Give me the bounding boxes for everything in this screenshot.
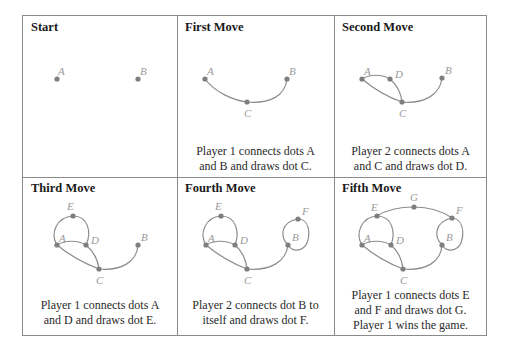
dot-e <box>374 213 379 218</box>
dot-d <box>83 242 88 247</box>
edge-d-c <box>235 245 247 269</box>
dot-b <box>439 242 444 247</box>
edge-a-c <box>206 245 247 269</box>
dot-a <box>202 76 207 81</box>
dot-graphs: A B A B C A D B C <box>0 0 510 352</box>
dot-g <box>411 204 416 209</box>
label-c: C <box>244 274 252 286</box>
label-g: G <box>410 191 418 203</box>
label-a: A <box>206 65 214 77</box>
dot-d <box>388 242 393 247</box>
label-a: A <box>58 232 66 244</box>
edge-d-c <box>86 245 99 269</box>
dot-b <box>285 242 290 247</box>
label-b: B <box>446 231 453 243</box>
dot-e <box>70 213 75 218</box>
graph-third-move: E A D B C <box>54 200 148 286</box>
label-a: A <box>363 65 371 77</box>
edge-c-b <box>247 79 287 102</box>
edge-c-b <box>402 78 442 102</box>
edge-e-g <box>377 207 414 216</box>
graph-start: A B <box>54 65 147 82</box>
label-a: A <box>207 232 215 244</box>
graph-second-move: A D B C <box>359 64 452 119</box>
label-b: B <box>140 65 147 77</box>
dot-a <box>54 76 59 81</box>
label-b: B <box>445 64 452 76</box>
edge-e-d <box>221 216 237 245</box>
label-b: B <box>289 65 296 77</box>
edge-d-c <box>391 245 403 269</box>
label-a: A <box>57 65 65 77</box>
graph-first-move: A B C <box>202 65 296 119</box>
edge-a-c <box>362 79 402 102</box>
dot-b <box>135 242 140 247</box>
dot-c <box>399 99 404 104</box>
edge-c-b <box>403 245 442 269</box>
edge-a-c <box>205 79 247 102</box>
edge-c-b <box>247 245 288 269</box>
label-c: C <box>399 107 407 119</box>
dot-e <box>218 213 223 218</box>
label-e: E <box>370 201 378 213</box>
label-a: A <box>363 232 371 244</box>
label-d: D <box>395 234 404 246</box>
label-b: B <box>292 231 299 243</box>
dot-b <box>284 76 289 81</box>
label-d: D <box>90 234 99 246</box>
dot-d <box>232 242 237 247</box>
edge-a-c <box>57 245 99 269</box>
dot-c <box>96 266 101 271</box>
edge-g-f <box>414 207 452 218</box>
label-c: C <box>244 107 252 119</box>
dot-b <box>439 75 444 80</box>
graph-fifth-move: E G F A D B C <box>359 191 463 286</box>
dot-c <box>244 99 249 104</box>
label-c: C <box>400 274 408 286</box>
label-d: D <box>239 234 248 246</box>
edge-c-b <box>99 245 138 269</box>
edge-e-d <box>73 216 89 245</box>
label-c: C <box>96 274 104 286</box>
label-d: D <box>394 68 403 80</box>
dot-f <box>295 216 300 221</box>
dot-f <box>449 215 454 220</box>
label-f: F <box>455 204 463 216</box>
edge-a-c <box>362 245 403 269</box>
dot-c <box>244 266 249 271</box>
label-b: B <box>141 231 148 243</box>
label-e: E <box>66 200 74 212</box>
dot-b <box>135 76 140 81</box>
dot-a <box>359 76 364 81</box>
label-f: F <box>301 205 309 217</box>
graph-fourth-move: E A D B F C <box>203 200 309 286</box>
dot-d <box>387 76 392 81</box>
dot-c <box>400 266 405 271</box>
edge-e-d <box>377 216 393 245</box>
label-e: E <box>214 200 222 212</box>
